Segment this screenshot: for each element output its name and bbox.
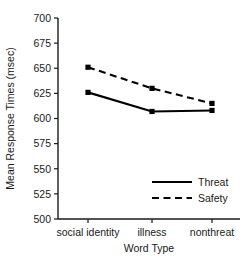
y-axis-title: Mean Response Times (msec)	[4, 47, 16, 189]
x-axis-title: Word Type	[124, 242, 175, 254]
y-axis-tick-label: 625	[33, 87, 51, 99]
data-point-marker	[149, 86, 154, 91]
x-axis-category-label: illness	[137, 226, 166, 238]
y-axis-tick-label: 550	[33, 163, 51, 175]
legend-label-safety: Safety	[198, 192, 229, 204]
y-axis-tick-label: 500	[33, 213, 51, 225]
y-axis-tick-label: 600	[33, 112, 51, 124]
series-line-threat	[88, 92, 212, 111]
y-axis-tick-label: 675	[33, 37, 51, 49]
line-chart: 500525550575600625650675700social identi…	[0, 0, 248, 266]
y-axis-tick-label: 650	[33, 62, 51, 74]
x-axis-category-label: social identity	[56, 226, 120, 238]
legend-label-threat: Threat	[198, 176, 228, 188]
data-point-marker	[209, 101, 214, 106]
data-point-marker	[85, 65, 90, 70]
y-axis-tick-label: 525	[33, 188, 51, 200]
data-point-marker	[209, 108, 214, 113]
y-axis-tick-label: 575	[33, 137, 51, 149]
y-axis-tick-label: 700	[33, 12, 51, 24]
chart-figure: 500525550575600625650675700social identi…	[0, 0, 248, 266]
data-point-marker	[149, 109, 154, 114]
data-point-marker	[85, 90, 90, 95]
x-axis-category-label: nonthreat	[190, 226, 234, 238]
